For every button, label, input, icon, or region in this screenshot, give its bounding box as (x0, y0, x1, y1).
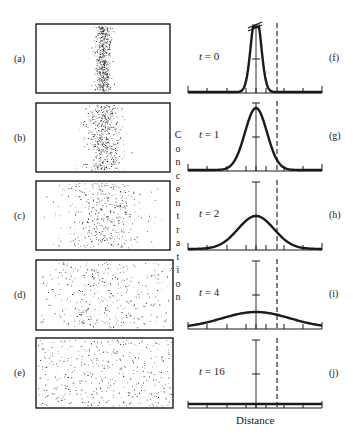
y-axis-label-letter: n (173, 155, 183, 169)
particle-box (36, 338, 173, 408)
y-axis-label-letter: a (173, 236, 183, 250)
y-axis-label-letter: c (173, 169, 183, 183)
y-axis-label-letter: o (173, 142, 183, 156)
panel-label: (e) (14, 368, 25, 378)
y-axis-label-letter: t (173, 250, 183, 264)
concentration-curve (188, 216, 322, 249)
concentration-curve (188, 312, 322, 326)
time-label: t = 1 (199, 129, 219, 140)
panel-label: (a) (14, 54, 25, 64)
y-axis-label-letter: e (173, 182, 183, 196)
particle-dots (89, 26, 115, 92)
panel-label: (i) (329, 289, 338, 299)
panel-label: (h) (329, 210, 341, 220)
time-label: t = 2 (199, 208, 219, 219)
y-axis-label-letter: i (173, 263, 183, 277)
panel-label: (d) (14, 290, 26, 300)
time-label: t = 16 (199, 366, 225, 377)
panel-label: (f) (329, 53, 339, 63)
y-axis-label-letter: n (173, 290, 183, 304)
particle-dots (76, 105, 132, 171)
particle-dots (38, 340, 172, 406)
particle-dots (40, 262, 172, 328)
y-axis-label-letter: C (173, 128, 183, 142)
time-value: = 4 (205, 286, 219, 298)
time-value: = 0 (205, 50, 219, 62)
particle-box (36, 260, 173, 330)
y-axis-label-letter: n (173, 196, 183, 210)
time-value: = 16 (205, 365, 225, 377)
x-axis-label: Distance (236, 414, 274, 426)
y-axis-label: Concentration (173, 128, 183, 304)
time-value: = 1 (205, 128, 219, 140)
y-axis-label-letter: r (173, 223, 183, 237)
y-axis-label-letter: t (173, 209, 183, 223)
time-label: t = 0 (199, 51, 219, 62)
y-axis-label-letter: o (173, 277, 183, 291)
time-value: = 2 (205, 207, 219, 219)
time-label: t = 4 (199, 287, 219, 298)
panel-label: (g) (329, 131, 341, 141)
diffusion-figure: Concentration Distance (a)(b)(c)(d)(e)t … (0, 0, 353, 438)
panel-label: (b) (14, 133, 26, 143)
panel-label: (j) (329, 368, 338, 378)
panel-label: (c) (14, 211, 25, 221)
particle-dots (44, 183, 161, 248)
